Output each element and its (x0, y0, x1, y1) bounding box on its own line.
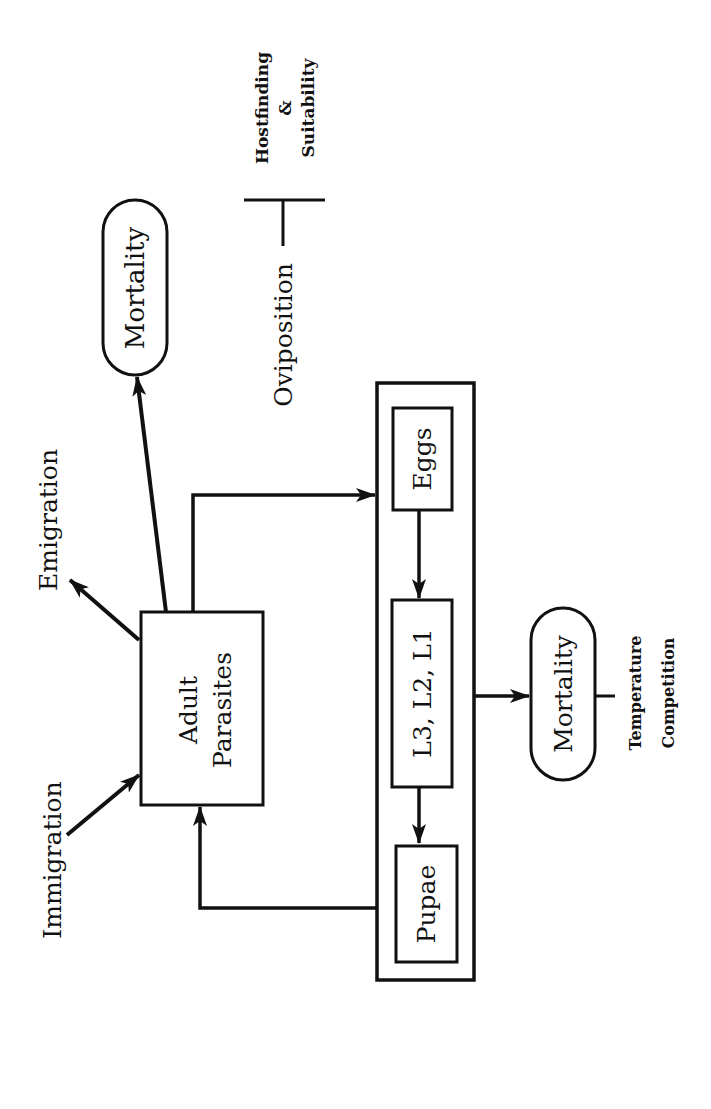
mortality-adult-node: Mortality (103, 200, 167, 375)
larvae-node: L3, L2, L1 (392, 600, 452, 787)
adult-mortality-arrow (137, 377, 166, 612)
life-cycle-diagram: Mortality Hostfinding & Suitability Ovip… (0, 0, 711, 1109)
mortality-adult-label: Mortality (120, 226, 150, 349)
oviposition-arrow (193, 495, 375, 612)
larvae-label: L3, L2, L1 (408, 628, 437, 757)
competition-text: Competition (659, 637, 678, 748)
oviposition-modifier: Oviposition (244, 200, 325, 407)
parasites-label: Parasites (208, 652, 237, 768)
eggs-node: Eggs (393, 408, 452, 510)
hostfinding-suitability-label: Hostfinding & Suitability (252, 52, 318, 164)
eggs-label: Eggs (408, 427, 437, 490)
mortality-immature-node: Mortality (531, 608, 595, 780)
hostfinding-text: Hostfinding (252, 52, 272, 164)
pupae-label: Pupae (412, 865, 441, 944)
pupae-node: Pupae (396, 846, 457, 962)
mortality-immature-label: Mortality (549, 634, 578, 753)
temperature-competition-label: Temperature Competition (626, 636, 678, 751)
pupae-to-adult-arrow (200, 807, 377, 908)
temperature-text: Temperature (626, 636, 645, 751)
immigration-label: Immigration (38, 781, 67, 938)
oviposition-label: Oviposition (269, 263, 298, 407)
emigration-label: Emigration (34, 449, 63, 591)
adult-label: Adult (174, 676, 203, 745)
ampersand-text: & (275, 100, 295, 116)
immigration-arrow (67, 775, 139, 835)
suitability-text: Suitability (298, 57, 318, 157)
adult-parasites-node: Adult Parasites (141, 612, 263, 805)
emigration-arrow (70, 580, 139, 640)
